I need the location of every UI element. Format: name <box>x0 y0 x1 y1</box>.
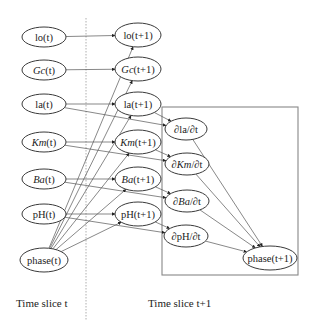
edge-la_t1-to-dla <box>154 112 171 121</box>
node-ba_t1: Ba(t+1) <box>115 167 161 191</box>
node-la_t: la(t) <box>22 94 66 114</box>
node-dkm: ∂Km/∂t <box>165 153 209 175</box>
node-lo_t1: lo(t+1) <box>115 23 161 47</box>
node-gc_t1: Gc(t+1) <box>115 57 161 81</box>
node-label: ∂Ba/∂t <box>173 196 201 207</box>
node-label: pH(t) <box>33 209 56 221</box>
node-dph: ∂pH/∂t <box>164 225 208 247</box>
node-label: la(t+1) <box>124 99 153 111</box>
node-label: la(t) <box>35 99 53 111</box>
node-dla: ∂la/∂t <box>165 118 207 140</box>
node-ph_t: pH(t) <box>22 204 66 224</box>
node-km_t1: Km(t+1) <box>115 130 161 154</box>
edge-phase_t-to-km_t1 <box>53 153 129 249</box>
edge-dba-to-phase_t1 <box>200 210 255 248</box>
node-label: Ba(t) <box>33 174 55 186</box>
edge-ba_t1-to-dba <box>155 187 170 194</box>
node-phase_t: phase(t) <box>20 248 68 272</box>
caption-time-slice-t: Time slice t <box>16 297 68 309</box>
node-la_t1: la(t+1) <box>115 92 161 116</box>
node-ph_t1: pH(t+1) <box>115 202 161 226</box>
node-label: pH(t+1) <box>121 209 155 221</box>
node-label: ∂pH/∂t <box>171 231 200 242</box>
edge-gc_t-to-gc_t1 <box>66 69 115 70</box>
node-label: Ba(t+1) <box>122 174 155 186</box>
node-km_t: Km(t) <box>22 132 66 152</box>
node-label: lo(t) <box>35 32 54 44</box>
node-label: lo(t+1) <box>123 30 153 42</box>
edge-dph-to-phase_t1 <box>205 241 246 252</box>
node-lo_t: lo(t) <box>22 27 66 47</box>
dbn-diagram: lo(t)Gc(t)la(t)Km(t)Ba(t)pH(t)phase(t)lo… <box>0 0 322 326</box>
node-label: Km(t+1) <box>119 137 156 149</box>
edge-km_t1-to-dkm <box>155 150 170 157</box>
node-label: ∂Km/∂t <box>172 159 203 170</box>
node-dba: ∂Ba/∂t <box>165 190 209 212</box>
node-label: Gc(t+1) <box>121 64 155 76</box>
edge-lo_t-to-lo_t1 <box>66 35 115 36</box>
node-label: Gc(t) <box>33 65 56 77</box>
node-label: phase(t) <box>27 255 61 267</box>
node-gc_t: Gc(t) <box>22 60 66 80</box>
node-label: phase(t+1) <box>248 253 293 265</box>
node-phase_t1: phase(t+1) <box>243 246 297 270</box>
nodes-layer: lo(t)Gc(t)la(t)Km(t)Ba(t)pH(t)phase(t)lo… <box>20 23 297 272</box>
node-ba_t: Ba(t) <box>22 169 66 189</box>
caption-time-slice-t1: Time slice t+1 <box>148 297 211 309</box>
node-label: ∂la/∂t <box>174 124 198 135</box>
node-label: Km(t) <box>31 137 57 149</box>
edge-phase_t-to-ba_t1 <box>56 189 126 249</box>
